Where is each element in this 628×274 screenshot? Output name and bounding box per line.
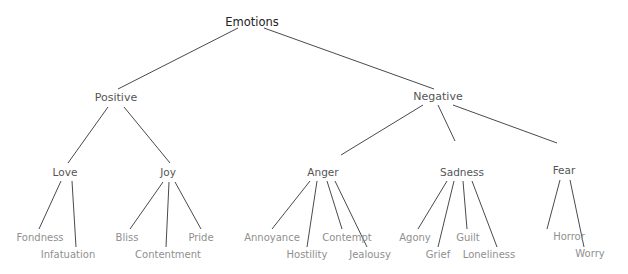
node-emotions: Emotions [225,15,279,29]
edge-emotions-negative [264,28,434,89]
edge-love-fondness [39,181,61,229]
emotion-tree-diagram: EmotionsPositiveNegativeLoveJoyAngerSadn… [0,0,628,274]
edge-joy-pride [175,182,201,229]
node-fondness: Fondness [16,232,63,243]
edge-negative-fear [453,105,557,143]
node-anger: Anger [307,166,339,178]
edge-sadness-guilt [463,181,467,229]
edge-anger-contempt [327,181,342,229]
edge-anger-annoyance [272,181,310,229]
node-hostility: Hostility [287,249,328,260]
node-pride: Pride [188,232,213,243]
node-agony: Agony [399,232,431,243]
node-negative: Negative [413,90,463,103]
node-positive: Positive [95,91,138,104]
edge-positive-joy [124,107,170,163]
node-contentment: Contentment [135,249,201,260]
edge-emotions-positive [118,28,238,89]
node-bliss: Bliss [116,232,139,243]
node-guilt: Guilt [456,232,480,243]
node-love: Love [53,166,78,178]
node-horror: Horror [553,231,586,242]
node-infatuation: Infatuation [41,249,95,260]
edge-joy-bliss [130,182,163,229]
edge-anger-hostility [307,181,317,247]
node-loneliness: Loneliness [463,249,515,260]
edge-positive-love [68,107,108,163]
edge-sadness-grief [438,181,454,247]
edge-negative-sadness [438,105,455,141]
node-fear: Fear [553,164,576,176]
edge-sadness-agony [418,181,447,229]
edge-joy-contentment [166,182,169,247]
edge-negative-anger [341,105,423,155]
node-joy: Joy [159,166,176,178]
edges [39,28,584,247]
node-annoyance: Annoyance [244,232,300,243]
node-sadness: Sadness [440,166,484,178]
edge-fear-horror [547,180,560,229]
node-worry: Worry [575,248,604,259]
edge-love-infatuation [72,181,76,247]
node-jealousy: Jealousy [348,249,391,260]
node-contempt: Contempt [322,232,372,243]
node-grief: Grief [426,249,451,260]
